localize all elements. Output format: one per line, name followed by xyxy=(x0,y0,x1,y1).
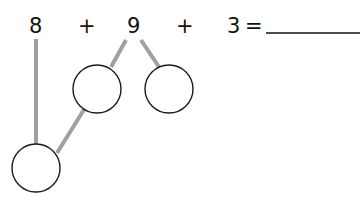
term-8: 8 xyxy=(29,14,42,38)
term-9: 9 xyxy=(127,14,140,38)
bond-line-9-right xyxy=(141,40,159,67)
circle-split-9-left[interactable] xyxy=(73,65,121,113)
circle-make-ten[interactable] xyxy=(12,144,60,192)
answer-blank[interactable] xyxy=(268,12,360,34)
plus-sign-2: + xyxy=(176,14,194,38)
term-3: 3 xyxy=(227,14,240,38)
bond-line-ten xyxy=(57,108,85,153)
circle-split-9-right[interactable] xyxy=(145,65,193,113)
plus-sign-1: + xyxy=(78,14,96,38)
equals-sign: = xyxy=(245,14,263,38)
bond-line-9-left xyxy=(111,40,126,67)
